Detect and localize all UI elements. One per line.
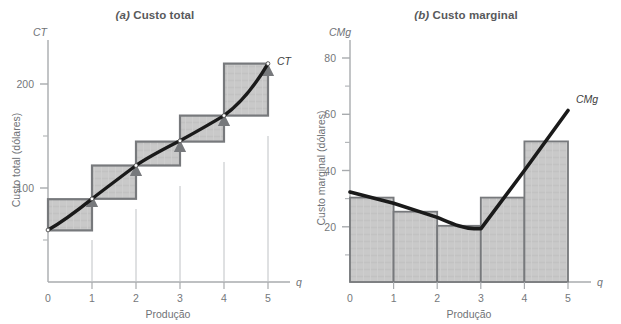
- panel-custo-marginal: (b) Custo marginal 20 40 60 80: [311, 0, 621, 324]
- curve-marker-1: [90, 197, 94, 201]
- marginal-cost-bars: [350, 141, 568, 282]
- x-tick-label-3-b: 3: [478, 292, 484, 304]
- y-axis-title-b: Custo marginal (dólares): [315, 111, 327, 226]
- bar-3-4: [481, 198, 525, 282]
- curve-marker-3: [178, 139, 182, 143]
- x-tick-label-2-a: 2: [133, 292, 139, 304]
- x-axis-name-b: q: [597, 276, 603, 288]
- curve-marker-2: [134, 164, 138, 168]
- x-axis-title-b: Produção: [447, 308, 492, 320]
- x-tick-label-0-a: 0: [45, 292, 51, 304]
- x-tick-label-5-b: 5: [565, 292, 571, 304]
- y-axis-title-a: Custo total (dólares): [10, 113, 22, 208]
- curve-label-ct: CT: [277, 55, 293, 67]
- x-tick-label-2-b: 2: [434, 292, 440, 304]
- chart-a-svg: 100 200 0 1 2 3 4 5: [0, 0, 310, 324]
- x-tick-label-1-a: 1: [89, 292, 95, 304]
- curve-marker-4: [222, 114, 226, 118]
- bar-2-3: [437, 226, 481, 282]
- y-tick-label-200-a: 200: [16, 78, 34, 90]
- y-axis-name-b: CMg: [329, 26, 351, 38]
- curve-marker-0: [46, 228, 50, 232]
- x-tick-label-3-a: 3: [177, 292, 183, 304]
- x-tick-label-4-b: 4: [521, 292, 527, 304]
- y-axis-name-a: CT: [33, 26, 49, 38]
- x-tick-label-1-b: 1: [391, 292, 397, 304]
- curve-label-cmg: CMg: [576, 93, 598, 105]
- bar-1-2: [394, 212, 438, 282]
- x-axis-name-a: q: [296, 276, 302, 288]
- curve-marker-5: [266, 62, 270, 66]
- bar-0-1: [350, 198, 394, 282]
- x-axis-title-a: Produção: [146, 308, 191, 320]
- x-tick-label-4-a: 4: [221, 292, 227, 304]
- y-tick-label-80-b: 80: [324, 52, 336, 64]
- x-tick-label-5-a: 5: [265, 292, 271, 304]
- panel-custo-total: (a) Custo total 100 200: [0, 0, 310, 324]
- chart-b-svg: 20 40 60 80 0 1 2 3 4 5 CMg q CMg Custo …: [311, 0, 621, 324]
- x-tick-label-0-b: 0: [347, 292, 353, 304]
